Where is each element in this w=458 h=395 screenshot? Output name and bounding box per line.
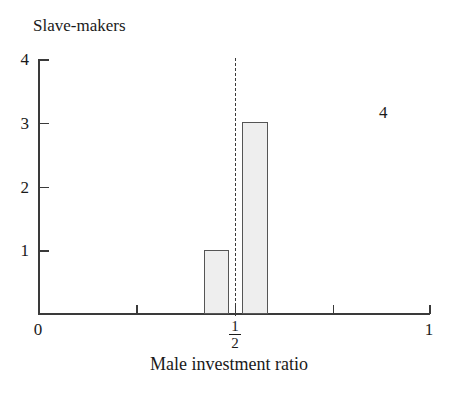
y-tick-1 bbox=[40, 250, 49, 252]
chart-figure: Slave-makers 4 3 2 1 0 1 1 2 4 Male inve… bbox=[0, 0, 458, 395]
fraction-numerator: 1 bbox=[229, 318, 241, 335]
y-tick-4 bbox=[40, 59, 49, 61]
y-tick-3 bbox=[40, 123, 49, 125]
bar-second bbox=[242, 122, 268, 315]
x-tick-quarter bbox=[136, 305, 138, 314]
y-tick-label-1: 1 bbox=[0, 242, 29, 259]
y-tick-2 bbox=[40, 187, 49, 189]
bar-first bbox=[204, 250, 229, 315]
x-tick-0 bbox=[38, 305, 40, 314]
annotation-count: 4 bbox=[379, 104, 388, 121]
reference-line-half bbox=[235, 58, 236, 316]
chart-title: Slave-makers bbox=[33, 17, 126, 34]
x-tick-label-half: 1 2 bbox=[215, 318, 255, 351]
x-tick-label-0: 0 bbox=[18, 321, 58, 338]
y-tick-label-3: 3 bbox=[0, 115, 29, 132]
x-tick-label-1: 1 bbox=[409, 321, 449, 338]
x-axis-title: Male investment ratio bbox=[0, 355, 458, 373]
fraction-one-half: 1 2 bbox=[229, 318, 241, 351]
y-tick-label-4: 4 bbox=[0, 51, 29, 68]
x-tick-three-quarter bbox=[333, 305, 335, 314]
fraction-denominator: 2 bbox=[229, 335, 241, 351]
y-tick-label-2: 2 bbox=[0, 179, 29, 196]
x-tick-1 bbox=[429, 305, 431, 314]
